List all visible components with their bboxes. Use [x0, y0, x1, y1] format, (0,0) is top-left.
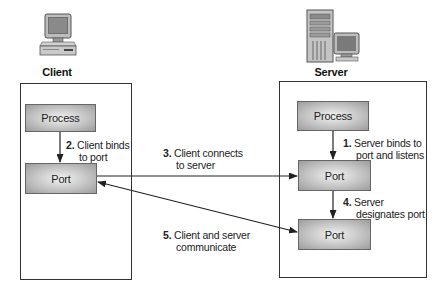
step-4-label: 4. Server designates port	[343, 196, 425, 220]
step-4-line1: Server	[354, 196, 384, 208]
step-5-line1: Client and server	[174, 229, 250, 241]
step-2-number: 2.	[66, 139, 74, 151]
step-1-number: 1.	[343, 137, 351, 149]
step-1-line1: Server binds to	[354, 137, 422, 149]
server-label: Server	[314, 66, 347, 78]
client-process-node: Process	[25, 104, 96, 132]
step-3-number: 3.	[163, 147, 171, 159]
step-1-label: 1. Server binds to port and listens	[343, 137, 424, 161]
step-5-line2: communicate	[163, 241, 250, 253]
server-listening-port-node: Port	[298, 160, 371, 191]
step-2-line1: Client binds	[77, 139, 129, 151]
server-computer-icon	[305, 8, 361, 64]
step-3-line2: to server	[163, 159, 243, 171]
server-designated-port-node: Port	[298, 219, 371, 250]
step-3-line1: Client connects	[174, 147, 243, 159]
step-4-line2: designates port	[343, 208, 425, 220]
step-1-line2: port and listens	[343, 149, 424, 161]
step-3-label: 3. Client connects to server	[163, 147, 243, 171]
client-label: Client	[42, 66, 71, 78]
step-4-number: 4.	[343, 196, 351, 208]
client-port-node: Port	[25, 163, 97, 194]
step-5-number: 5.	[163, 229, 171, 241]
step-2-label: 2. Client binds to port	[66, 139, 130, 163]
step-5-label: 5. Client and server communicate	[163, 229, 250, 253]
step-2-line2: to port	[66, 151, 130, 163]
client-computer-icon	[38, 12, 78, 64]
server-process-node: Process	[297, 101, 369, 131]
